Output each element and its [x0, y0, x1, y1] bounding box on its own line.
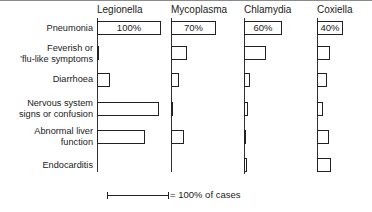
- bar-legionella-diarrhoea: [97, 73, 110, 87]
- panel-axis-coxiella: [317, 18, 318, 172]
- panel-title-coxiella: Coxiella: [317, 4, 353, 15]
- panel-axis-chlamydia: [244, 18, 245, 174]
- bar-mycoplasma-feverish: [171, 46, 187, 60]
- panel-title-chlamydia: Chlamydia: [244, 4, 291, 15]
- bar-coxiella-liver-function: [317, 130, 329, 144]
- panel-title-mycoplasma: Mycoplasma: [171, 4, 227, 15]
- category-label-endocarditis: Endocarditis: [0, 160, 93, 171]
- bar-coxiella-feverish: [317, 46, 330, 60]
- panel-axis-legionella: [97, 18, 98, 172]
- bar-chlamydia-liver-function: [244, 130, 246, 144]
- panel-axis-mycoplasma: [171, 18, 172, 172]
- bar-chlamydia-pneumonia: 60%: [244, 21, 282, 35]
- bar-chlamydia-endocarditis: [244, 158, 247, 172]
- bar-legionella-nervous-system: [97, 102, 159, 116]
- scale-bar: [107, 195, 169, 196]
- bar-chlamydia-feverish: [244, 46, 266, 60]
- bar-coxiella-pneumonia: 40%: [317, 21, 343, 35]
- bar-mycoplasma-pneumonia: 70%: [171, 21, 216, 35]
- category-label-pneumonia: Pneumonia: [0, 23, 93, 34]
- bar-legionella-liver-function: [97, 130, 145, 144]
- bar-legionella-feverish: [97, 46, 99, 60]
- bar-legionella-pneumonia: 100%: [97, 21, 161, 35]
- bar-mycoplasma-liver-function: [171, 130, 184, 144]
- bar-mycoplasma-diarrhoea: [171, 73, 179, 87]
- panel-title-legionella: Legionella: [97, 4, 143, 15]
- category-label-diarrhoea: Diarrhoea: [0, 74, 93, 85]
- bar-coxiella-nervous-system: [317, 102, 323, 116]
- bar-coxiella-endocarditis: [317, 158, 331, 172]
- bar-coxiella-diarrhoea: [317, 73, 327, 87]
- bar-mycoplasma-nervous-system: [171, 102, 173, 116]
- category-label-feverish: Feverish or ’flu-like symptoms: [0, 43, 93, 64]
- category-label-liver-function: Abnormal liver function: [0, 126, 93, 147]
- bar-chlamydia-nervous-system: [244, 102, 248, 116]
- category-label-nervous-system: Nervous system signs or confusion: [0, 98, 93, 119]
- scale-label: = 100% of cases: [170, 189, 241, 200]
- top-border-line: [0, 0, 372, 1]
- bar-chlamydia-diarrhoea: [244, 73, 250, 87]
